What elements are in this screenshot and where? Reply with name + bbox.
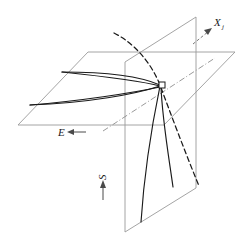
x-axis-label-group: X j	[193, 16, 224, 44]
e-axis-label-group: E	[57, 126, 86, 138]
e-axis-arrow-head	[67, 129, 74, 135]
horizontal-plane	[18, 52, 235, 125]
left-vertical-curve	[141, 86, 160, 222]
horizontal-curves-group	[30, 72, 160, 105]
x-axis-label-subscript: j	[221, 23, 224, 31]
e-axis-label: E	[57, 126, 65, 138]
x-axis-label: X	[213, 16, 222, 28]
right-vertical-curve	[161, 86, 173, 187]
figure-container: X j E S	[0, 0, 247, 247]
dashed-transition-curve	[114, 33, 199, 186]
lower-horizontal-curve	[30, 87, 160, 105]
s-axis-label-group: S	[96, 174, 108, 200]
s-axis-arrow-head	[100, 180, 106, 188]
schematic-diagram: X j E S	[0, 0, 247, 247]
convergence-node-marker	[159, 82, 165, 88]
s-axis-label: S	[96, 174, 108, 180]
lower-fan-connector	[30, 86, 160, 105]
planes-group	[18, 17, 235, 232]
